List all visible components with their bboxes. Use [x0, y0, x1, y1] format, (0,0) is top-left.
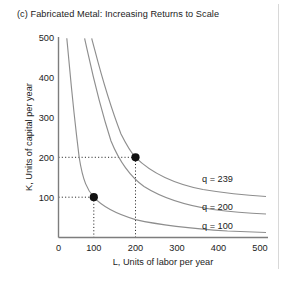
isoquant-curve-q200 — [85, 38, 266, 214]
x-tick-label-200: 200 — [128, 243, 143, 253]
x-tick-label-0: 0 — [56, 243, 61, 253]
figure-panel: (c) Fabricated Metal: Increasing Returns… — [0, 0, 293, 287]
y-tick-label-300: 300 — [39, 113, 54, 123]
marked-point-200-200 — [131, 153, 139, 161]
isoquant-curve-q239 — [92, 38, 266, 196]
y-tick-label-400: 400 — [39, 73, 54, 83]
y-axis-title: K, Units of capital per year — [24, 83, 34, 191]
curve-label-q200: q = 200 — [202, 202, 233, 212]
curve-labels: q = 239 q = 200 q = 100 — [202, 174, 233, 231]
y-tick-label-100: 100 — [39, 193, 54, 203]
isoquant-chart: 500 400 300 200 100 0 100 200 300 400 50… — [0, 0, 293, 287]
x-axis-title: L, Units of labor per year — [113, 257, 214, 267]
x-tick-label-500: 500 — [252, 243, 267, 253]
axes — [59, 37, 269, 238]
isoquant-curve-q100 — [67, 38, 266, 232]
y-axis-tick-labels: 500 400 300 200 100 — [39, 33, 54, 202]
curve-label-q100: q = 100 — [202, 221, 233, 231]
x-axis-tick-labels: 0 100 200 300 400 500 — [56, 243, 268, 253]
x-tick-label-300: 300 — [169, 243, 184, 253]
y-tick-label-500: 500 — [39, 33, 54, 43]
marked-points — [90, 153, 140, 201]
isoquant-curves — [67, 38, 266, 232]
x-tick-label-400: 400 — [211, 243, 226, 253]
x-tick-label-100: 100 — [86, 243, 101, 253]
curve-label-q239: q = 239 — [202, 174, 233, 184]
y-tick-label-200: 200 — [39, 153, 54, 163]
marked-point-100-100 — [90, 193, 98, 201]
